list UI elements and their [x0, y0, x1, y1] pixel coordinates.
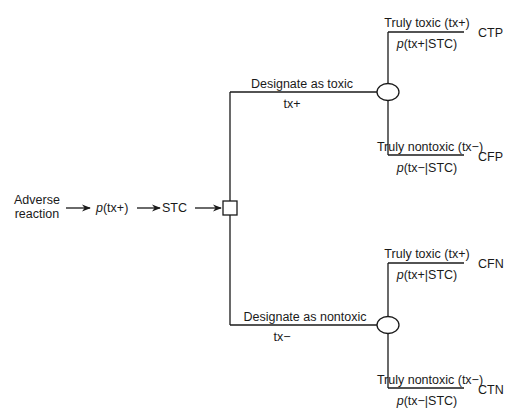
- prior-arg: (tx+): [103, 201, 128, 215]
- outcome-cfp-probability: p(tx−|STC): [397, 161, 458, 175]
- outcome-ctp-cost: CTP: [478, 26, 503, 40]
- prob-arg: (tx+|STC): [404, 37, 458, 51]
- prob-arg: (tx+|STC): [404, 268, 458, 282]
- prior-p: p: [96, 201, 103, 215]
- outcome-cfn-label: Truly toxic (tx+): [384, 247, 469, 261]
- prior-probability: p(tx+): [96, 201, 128, 215]
- branch-nontoxic-code: tx−: [273, 330, 290, 344]
- outcome-cfn-probability: p(tx+|STC): [397, 268, 458, 282]
- outcome-ctn-probability: p(tx−|STC): [397, 394, 458, 408]
- test-label: STC: [162, 201, 187, 215]
- prob-arg: (tx−|STC): [404, 161, 458, 175]
- input-label-line1: Adverse: [14, 193, 60, 207]
- chance-node-toxic: [377, 84, 399, 101]
- outcome-ctp-label: Truly toxic (tx+): [384, 16, 469, 30]
- prob-p: p: [397, 268, 404, 282]
- input-label-line2: reaction: [14, 207, 60, 221]
- prob-p: p: [397, 37, 404, 51]
- decision-tree-graphic: [0, 0, 519, 417]
- input-label: Adverse reaction: [14, 193, 60, 221]
- outcome-cfp-cost: CFP: [478, 150, 503, 164]
- branch-toxic-label: Designate as toxic: [251, 77, 353, 91]
- outcome-cfn-cost: CFN: [478, 257, 504, 271]
- outcome-ctn-cost: CTN: [478, 383, 504, 397]
- prob-p: p: [397, 161, 404, 175]
- chance-node-nontoxic: [377, 317, 399, 334]
- outcome-ctn-label: Truly nontoxic (tx−): [377, 373, 483, 387]
- branch-toxic-code: tx+: [283, 97, 300, 111]
- outcome-cfp-label: Truly nontoxic (tx−): [377, 140, 483, 154]
- outcome-ctp-probability: p(tx+|STC): [397, 37, 458, 51]
- prob-arg: (tx−|STC): [404, 394, 458, 408]
- branch-nontoxic-label: Designate as nontoxic: [244, 310, 367, 324]
- decision-node-square: [223, 201, 237, 215]
- prob-p: p: [397, 394, 404, 408]
